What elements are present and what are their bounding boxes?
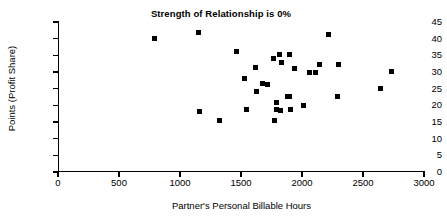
data-point: [272, 118, 277, 123]
data-point: [326, 32, 331, 37]
data-point: [265, 82, 270, 87]
data-point: [317, 62, 322, 67]
y-axis-title: Points (Profit Share): [6, 24, 17, 154]
x-tick-label: 0: [34, 178, 82, 188]
data-point: [234, 49, 239, 54]
data-point: [287, 94, 292, 99]
data-point: [274, 100, 279, 105]
plot-area: [58, 22, 424, 172]
data-point: [279, 60, 284, 65]
x-tick-label: 3000: [400, 178, 447, 188]
data-point: [244, 107, 249, 112]
data-point: [254, 89, 259, 94]
data-point: [335, 94, 340, 99]
data-point: [152, 36, 157, 41]
data-point: [271, 56, 276, 61]
data-point: [313, 70, 318, 75]
data-point: [378, 86, 383, 91]
data-point: [287, 52, 292, 57]
data-point: [278, 108, 283, 113]
x-tick-label: 1500: [217, 178, 265, 188]
x-tick-label: 1000: [156, 178, 204, 188]
data-point: [292, 66, 297, 71]
data-point: [242, 76, 247, 81]
data-point: [253, 65, 258, 70]
x-axis-title: Partner's Personal Billable Hours: [58, 200, 425, 211]
chart-title: Strength of Relationship is 0%: [0, 8, 442, 19]
data-point: [196, 30, 201, 35]
data-point: [288, 107, 293, 112]
x-tick-label: 500: [95, 178, 143, 188]
data-point: [197, 109, 202, 114]
data-point: [277, 52, 282, 57]
data-point: [389, 69, 394, 74]
data-point: [336, 62, 341, 67]
data-point: [301, 103, 306, 108]
data-point: [307, 70, 312, 75]
x-tick-label: 2500: [339, 178, 387, 188]
data-point: [217, 118, 222, 123]
x-tick-label: 2000: [278, 178, 326, 188]
